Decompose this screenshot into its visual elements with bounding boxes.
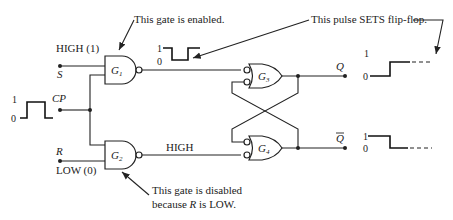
svg-text:0: 0 [157,56,162,67]
svg-text:This pulse SETS flip-flop.: This pulse SETS flip-flop. [311,13,427,25]
s-input: HIGH (1) S [56,42,105,80]
cp-level-low: 0 [11,113,16,124]
s-state-label: HIGH (1) [56,42,99,55]
svg-text:0: 0 [363,143,368,154]
qbar-waveform [368,136,408,148]
annotation-g1-enabled: This gate is enabled. [119,13,225,50]
cp-level-high: 1 [12,94,17,105]
svg-text:This gate is enabled.: This gate is enabled. [134,13,225,25]
negative-pulse-waveform [163,48,200,60]
svg-text:1: 1 [363,131,368,142]
g2-output-high-label: HIGH [166,141,194,153]
qbar-output: Q 1 0 [336,131,432,154]
cp-input: 1 0 CP [11,75,105,145]
annotation-g2-disabled: This gate is disabled because R is LOW. [122,172,243,210]
r-state-label: LOW (0) [56,164,97,177]
r-input: R LOW (0) [55,145,105,177]
svg-text:because R is LOW.: because R is LOW. [152,198,236,210]
gate-g1-nand: G1 [105,56,142,84]
gate-g4-or-inverted-inputs: G4 [244,136,282,160]
q-label: Q [336,60,344,72]
annotation-pulse-sets: This pulse SETS flip-flop. [193,13,443,58]
q-output: Q 1 0 [336,48,432,82]
cp-pulse-waveform [20,102,53,118]
cp-distribution-wire [90,75,105,145]
gate-g2-nand: G2 [105,141,142,169]
svg-text:1: 1 [157,43,162,54]
flip-flop-diagram: HIGH (1) S 1 0 CP R LOW (0) G1 1 0 G2 [0,0,453,220]
svg-text:0: 0 [363,71,368,82]
qbar-label: Q [336,132,344,144]
g1-output-pulse: 1 0 [157,43,200,67]
gate-g3-or-inverted-inputs: G3 [244,64,282,88]
r-label: R [55,145,63,157]
cp-label: CP [52,92,66,104]
s-label: S [57,68,63,80]
q-waveform [370,62,410,76]
svg-text:1: 1 [364,48,369,59]
svg-text:This gate is disabled: This gate is disabled [152,184,243,196]
